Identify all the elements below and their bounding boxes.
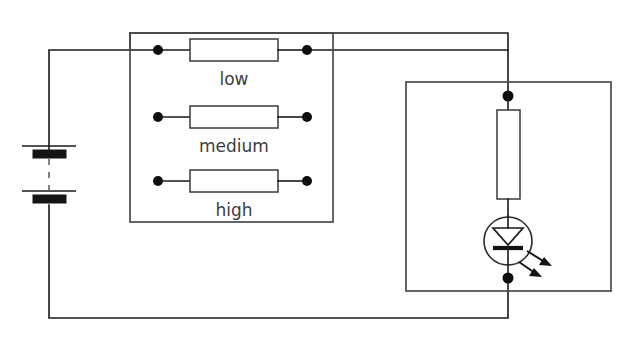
led-icon — [484, 216, 552, 278]
emission-arrow-1-head — [539, 257, 552, 266]
wire-battery-top-to-bank — [49, 50, 158, 152]
series-resistor-group — [497, 96, 520, 216]
resistor-medium-terminal-right[interactable] — [302, 112, 312, 122]
resistor-low-terminal-right[interactable] — [302, 45, 312, 55]
led-module-bottom-terminal[interactable] — [503, 273, 514, 284]
resistor-low-terminal-left[interactable] — [153, 45, 163, 55]
resistor-low-group: low — [153, 39, 312, 89]
resistor-high-body — [190, 170, 278, 192]
resistor-low-body — [190, 39, 278, 61]
battery-icon — [22, 146, 76, 203]
resistor-high-label: high — [215, 200, 252, 220]
circuit-diagram-canvas: low medium high — [0, 0, 639, 337]
resistor-medium-group: medium — [153, 106, 312, 156]
resistor-high-terminal-left[interactable] — [153, 176, 163, 186]
wire-bank-top-to-led — [130, 33, 508, 96]
resistor-medium-label: medium — [199, 136, 269, 156]
resistor-medium-body — [190, 106, 278, 128]
resistor-high-group: high — [153, 170, 312, 220]
circuit-schematic: low medium high — [0, 0, 639, 337]
battery-cell1-plate-negative — [33, 150, 66, 158]
series-resistor-body — [497, 110, 520, 199]
resistor-high-terminal-right[interactable] — [302, 176, 312, 186]
resistor-low-label: low — [219, 69, 248, 89]
battery-cell2-plate-negative — [33, 195, 66, 203]
resistor-medium-terminal-left[interactable] — [153, 112, 163, 122]
